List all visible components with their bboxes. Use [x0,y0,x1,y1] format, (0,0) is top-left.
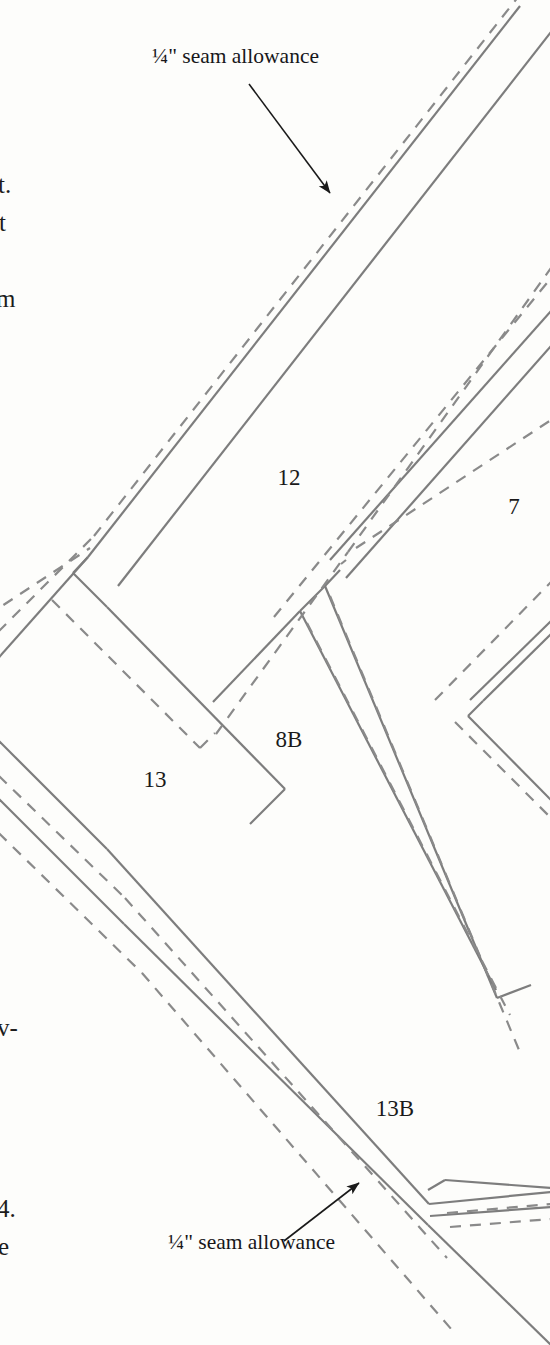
pattern-drawing [0,0,550,1345]
stitching-line-18 [483,634,550,701]
stitching-line-28 [445,1180,550,1188]
stitching-line-25 [429,1192,550,1204]
seam-line-16 [125,898,447,1258]
stitching-lines [0,6,550,1345]
stitching-line-16 [470,621,550,700]
stitching-line-23 [124,924,428,1225]
margin-fragment-m: m [0,286,15,311]
stitching-line-17 [468,701,483,716]
stitching-line-5 [88,6,520,557]
seam-allowance-label-bottom: ¼" seam allowance [168,1232,335,1254]
seam-line-9 [341,560,346,564]
stitching-line-19 [468,716,550,800]
stitching-line-4 [250,789,285,824]
stitching-line-27 [428,1180,445,1190]
seam-line-12 [435,582,550,700]
stitching-line-24 [428,1225,550,1345]
seam-line-5 [216,552,348,734]
seam-allowance-label-top: ¼" seam allowance [152,46,319,68]
stitching-line-9 [300,586,325,611]
seam-line-13 [455,722,550,818]
stitching-line-0 [0,557,88,690]
seam-line-19 [450,1219,550,1227]
stitching-line-10 [213,611,300,702]
pattern-diagram-page: ¼" seam allowance ¼" seam allowance 12 7… [0,0,550,1345]
margin-fragment-v-dash: v- [0,1015,18,1040]
seam-allowance-lines [0,0,550,1330]
piece-label-8b: 8B [276,728,303,751]
seam-line-3 [52,600,200,748]
piece-label-7: 7 [508,495,520,518]
piece-label-13: 13 [144,768,167,791]
seam-line-17 [142,973,452,1330]
stitching-line-6 [73,573,74,574]
stitching-line-22 [107,849,429,1204]
seam-line-14 [0,748,125,898]
piece-label-13b: 13B [376,1097,414,1120]
piece-label-12: 12 [278,466,301,489]
stitching-line-20 [0,712,107,849]
arrow-seam-allowance-top [249,84,330,193]
stitching-line-8 [325,570,340,586]
margin-fragment-t: t [0,210,6,235]
stitching-line-7 [118,32,550,586]
seam-line-8 [356,420,550,548]
stitching-line-11 [330,311,550,560]
stitching-line-12 [346,346,550,578]
seam-line-4 [200,733,215,748]
stitching-line-1 [73,557,88,573]
stitching-line-3 [107,607,285,789]
margin-fragment-e: e [0,1234,9,1259]
seam-line-15 [0,805,142,973]
margin-fragment-t-period: t. [0,172,11,197]
stitching-line-2 [73,573,107,607]
stitching-line-15 [497,985,531,998]
margin-fragment-4-period: 4. [0,1196,16,1221]
